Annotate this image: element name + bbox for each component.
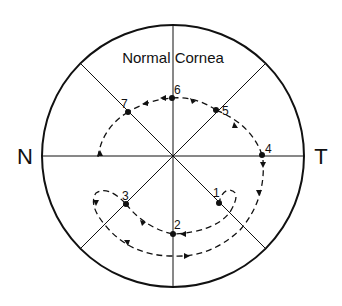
point-label-6: 6	[174, 83, 181, 97]
temporal-label: T	[314, 144, 327, 169]
point-label-4: 4	[265, 142, 272, 156]
arrowheads	[93, 95, 266, 259]
point-label-3: 3	[122, 189, 129, 203]
measurement-points	[123, 95, 265, 237]
cornea-diagram: 1 2 3 4 5 6 7 Normal Cornea N T	[0, 0, 342, 306]
nasal-label: N	[17, 144, 33, 169]
diagram-title: Normal Cornea	[122, 49, 224, 66]
eye-movement-path	[93, 98, 263, 256]
point-label-7: 7	[121, 97, 128, 111]
point-label-1: 1	[213, 186, 220, 200]
point-label-5: 5	[222, 104, 229, 118]
point-label-2: 2	[174, 218, 181, 232]
